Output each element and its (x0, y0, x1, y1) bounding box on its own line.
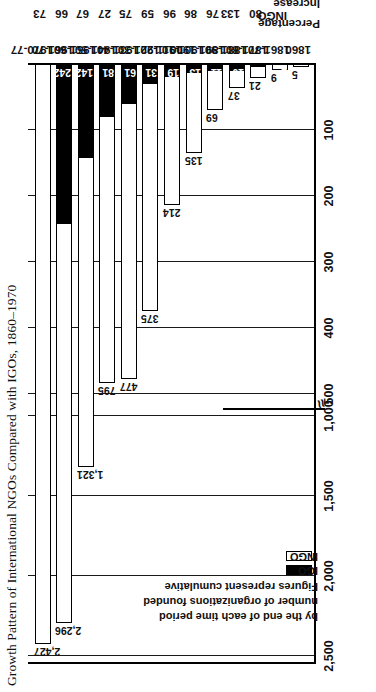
percentage-value-ingo: 73 (34, 8, 47, 20)
percentage-value-ingo: 66 (55, 8, 68, 20)
percentage-table-header: Increase (273, 0, 320, 10)
percentage-value-ingo: 59 (141, 8, 154, 20)
percentage-row-label-ingo: INGO (258, 10, 287, 22)
percentage-value-ingo: 76 (206, 8, 219, 20)
percentage-value-ingo: 27 (98, 8, 111, 20)
percentage-value-ingo: 86 (184, 8, 197, 20)
figure-stage: Growth Pattern of International NGOs Com… (0, 0, 376, 692)
percentage-value-ingo: 67 (77, 8, 90, 20)
percentage-value-ingo: 96 (163, 8, 176, 20)
percentage-value-ingo: 75 (120, 8, 133, 20)
percentage-value-ingo: 133 (221, 8, 240, 20)
percentage-increase-table: PercentageIncreaseINGOIGO801001331507610… (0, 0, 376, 692)
percentage-value-ingo: 80 (249, 8, 262, 20)
